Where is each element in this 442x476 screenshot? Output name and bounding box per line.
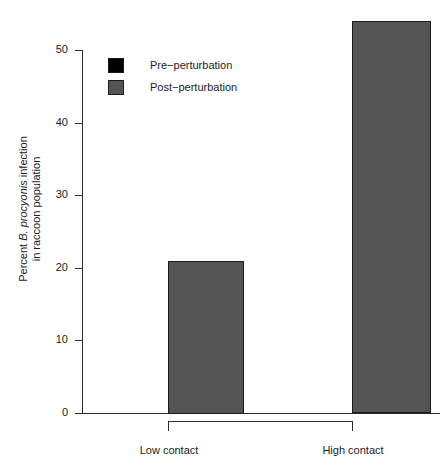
x-tick-mark-low-contact bbox=[168, 421, 169, 431]
legend-swatch-black-icon bbox=[108, 58, 124, 73]
y-tick-label: 20 bbox=[42, 262, 68, 273]
y-tick-label: 0 bbox=[42, 407, 68, 418]
zero-baseline bbox=[82, 413, 440, 414]
y-tick-label: 40 bbox=[42, 117, 68, 128]
bar-chart-figure: 50 40 30 20 10 0 Percent B. procyonis in… bbox=[0, 0, 442, 476]
y-axis-title: Percent B. procyonis infection in raccoo… bbox=[17, 84, 43, 334]
y-tick-label: 30 bbox=[42, 189, 68, 200]
y-tick-mark bbox=[75, 268, 82, 269]
x-axis-line bbox=[168, 421, 353, 422]
y-axis-title-line-2: in raccoon population bbox=[30, 84, 43, 334]
y-axis-title-prefix: Percent bbox=[17, 241, 29, 282]
legend-label: Post−perturbation bbox=[150, 81, 237, 94]
y-axis-title-species: B. procyonis bbox=[17, 180, 29, 241]
y-axis-title-line-1: Percent B. procyonis infection bbox=[17, 84, 30, 334]
legend-swatch-gray-icon bbox=[108, 80, 124, 95]
y-tick-mark bbox=[75, 195, 82, 196]
legend-label: Pre−perturbation bbox=[150, 59, 232, 72]
y-axis-title-suffix: infection bbox=[17, 136, 29, 180]
x-axis-label-low-contact: Low contact bbox=[140, 444, 199, 456]
y-tick-mark bbox=[75, 123, 82, 124]
y-tick-label: 10 bbox=[42, 334, 68, 345]
y-tick-mark bbox=[75, 413, 82, 414]
x-axis-label-high-contact: High contact bbox=[322, 444, 383, 456]
x-tick-mark-high-contact bbox=[352, 421, 353, 431]
y-tick-mark bbox=[75, 340, 82, 341]
bar-high-contact-post-perturbation bbox=[352, 21, 431, 413]
bar-low-contact-post-perturbation bbox=[168, 261, 244, 414]
x-axis-bracket bbox=[168, 421, 353, 431]
y-tick-label: 50 bbox=[42, 44, 68, 55]
y-axis-line bbox=[82, 50, 83, 414]
y-tick-mark bbox=[75, 50, 82, 51]
